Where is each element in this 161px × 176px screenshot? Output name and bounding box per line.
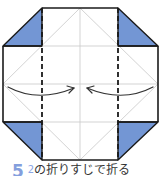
flap-bottom-right (118, 122, 158, 160)
flap-bottom-left (3, 122, 42, 160)
step-caption: 5 2 の折りすじで折る (12, 163, 130, 176)
flap-top-right (118, 8, 158, 46)
flap-top-left (3, 8, 42, 46)
step-number: 5 (12, 163, 24, 176)
step-instruction: の折りすじで折る (34, 163, 130, 176)
origami-diagram (0, 0, 161, 176)
